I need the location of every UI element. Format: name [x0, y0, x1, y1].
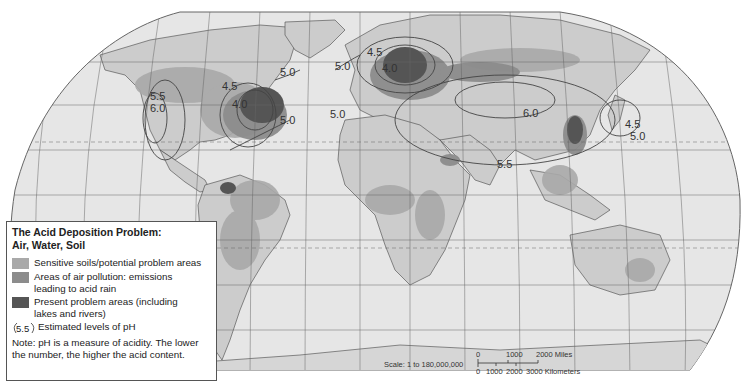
- legend-item-ph: 5.5 Estimated levels of pH: [12, 321, 211, 335]
- svg-text:5.0: 5.0: [330, 108, 345, 120]
- map-legend: The Acid Deposition Problem: Air, Water,…: [6, 221, 217, 381]
- svg-text:5.5: 5.5: [497, 158, 512, 170]
- svg-text:5.0: 5.0: [630, 130, 645, 142]
- scale-ratio: Scale: 1 to 180,000,000: [384, 360, 463, 369]
- svg-text:3000 Kilometers: 3000 Kilometers: [526, 367, 580, 376]
- legend-item-sensitive-soils: Sensitive soils/potential problem areas: [12, 257, 211, 269]
- svg-text:5.0: 5.0: [280, 66, 295, 78]
- svg-text:2000 Miles: 2000 Miles: [536, 350, 573, 359]
- svg-text:5.5: 5.5: [150, 90, 165, 102]
- legend-item-air-pollution: Areas of air pollution: emissionsleading…: [12, 271, 211, 294]
- svg-text:4.0: 4.0: [382, 62, 397, 74]
- sensitive-soils-swatch: [12, 258, 29, 269]
- svg-text:5.0: 5.0: [335, 60, 350, 72]
- svg-text:0: 0: [476, 367, 480, 376]
- svg-text:1000: 1000: [506, 350, 523, 359]
- svg-text:4.0: 4.0: [232, 98, 247, 110]
- legend-item-present-problem: Present problem areas (includinglakes an…: [12, 296, 211, 319]
- scale-bar: 0 1000 2000 Miles 0 1000 2000 3000 Kilom…: [476, 349, 606, 379]
- present-problem-swatch: [12, 297, 29, 308]
- air-pollution-swatch: [12, 272, 29, 283]
- svg-text:4.5: 4.5: [625, 118, 640, 130]
- svg-text:2000: 2000: [506, 367, 523, 376]
- svg-text:4.5: 4.5: [367, 46, 382, 58]
- svg-text:4.5: 4.5: [222, 80, 237, 92]
- svg-text:1000: 1000: [486, 367, 503, 376]
- svg-text:0: 0: [476, 350, 480, 359]
- legend-title: The Acid Deposition Problem: Air, Water,…: [12, 226, 211, 251]
- svg-text:6.0: 6.0: [523, 107, 538, 119]
- ph-contour-icon: 5.5: [12, 321, 36, 335]
- svg-text:6.0: 6.0: [150, 102, 165, 114]
- svg-text:5.5: 5.5: [16, 323, 29, 334]
- svg-text:5.0: 5.0: [280, 114, 295, 126]
- legend-note: Note: pH is a measure of acidity. The lo…: [12, 337, 211, 360]
